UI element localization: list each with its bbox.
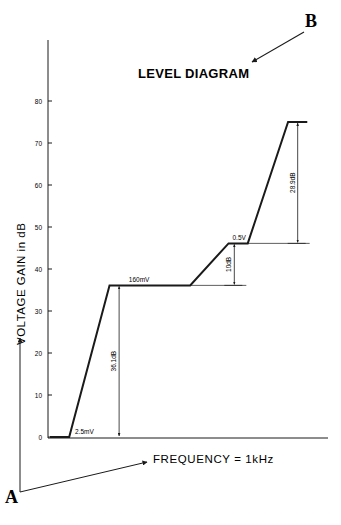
y-tick-label: 80	[35, 98, 43, 105]
level-label: 2.5mV	[75, 428, 94, 435]
gain-step-label: 36.1dB	[110, 351, 117, 372]
callout-b-arrow	[252, 32, 304, 62]
callout-a-horizontal-arrow	[20, 462, 147, 492]
level-label: 0.5V	[232, 234, 246, 241]
y-ticks: 01020304050607080	[35, 98, 52, 441]
callout-b-label: B	[305, 11, 317, 31]
gain-step-label: 10dB	[225, 257, 232, 272]
y-tick-label: 50	[35, 224, 43, 231]
y-tick-label: 40	[35, 266, 43, 273]
annotations: 36.1dB10dB28.9dB2.5mV160mV0.5V	[75, 123, 310, 436]
y-axis-label: VOLTAGE GAIN in dB	[15, 223, 27, 345]
diagram-title: LEVEL DIAGRAM	[138, 66, 249, 81]
y-tick-label: 0	[38, 434, 42, 441]
y-tick-label: 70	[35, 140, 43, 147]
y-tick-label: 20	[35, 350, 43, 357]
level-label: 160mV	[129, 276, 150, 283]
x-axis-label: FREQUENCY = 1kHz	[153, 453, 274, 465]
level-diagram: LEVEL DIAGRAM B VOLTAGE GAIN in dB 01020…	[0, 0, 341, 525]
gain-step-label: 28.9dB	[289, 172, 296, 193]
y-tick-label: 10	[35, 392, 43, 399]
y-tick-label: 60	[35, 182, 43, 189]
level-series-line	[50, 122, 307, 437]
y-tick-label: 30	[35, 308, 43, 315]
callout-a-label: A	[5, 487, 18, 507]
